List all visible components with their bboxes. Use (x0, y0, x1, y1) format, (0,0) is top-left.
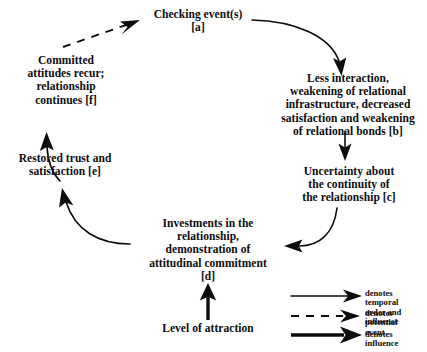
node-a-checking-events: Checking event(s) [a] (144, 8, 252, 34)
node-d-investments: Investments in the relationship, demonst… (126, 217, 290, 283)
node-level-of-attraction: Level of attraction (143, 322, 273, 335)
legend-label-influence: denotes influence (365, 330, 427, 349)
legend-marker-dashed-arrow (291, 310, 360, 323)
legend-marker-solid-arrow (291, 290, 362, 303)
edge-f-to-a (63, 20, 140, 47)
cycle-diagram: Checking event(s) [a] Less interaction, … (0, 0, 427, 352)
node-c-uncertainty: Uncertainty about the continuity of the … (284, 165, 414, 205)
edge-d-to-e (59, 188, 130, 244)
node-e-restored-trust: Restored trust and satisfaction [e] (4, 152, 126, 178)
edge-c-to-d (284, 208, 337, 253)
legend-marker-thick-arrow (291, 327, 362, 344)
edge-attraction-to-d (200, 283, 216, 320)
edge-a-to-b (252, 20, 346, 76)
node-b-less-interaction: Less interaction, weakening of relationa… (272, 72, 424, 138)
node-f-committed-attitudes: Committed attitudes recur; relationship … (12, 54, 120, 107)
